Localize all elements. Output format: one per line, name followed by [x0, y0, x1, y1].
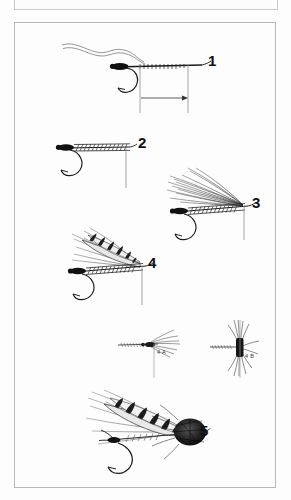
figure-label-4a: 4 A: [157, 350, 166, 356]
figure-label-1: 1: [208, 53, 216, 68]
figure-3-group: [167, 168, 255, 240]
figure-label-2: 2: [138, 135, 146, 150]
figure-label-4: 4: [148, 255, 156, 270]
figure-2-group: [56, 144, 137, 188]
fly-tying-illustration: [0, 0, 291, 500]
scanned-page: 1 2 3 4 4 A 4 B 5: [0, 0, 291, 500]
figure-label-3: 3: [252, 195, 260, 210]
figure-4-group: [68, 228, 153, 305]
figure-label-4b: 4 B: [245, 354, 254, 360]
figure-4b-group: [210, 320, 259, 378]
figure-label-5: 5: [200, 423, 208, 438]
figure-1-group: [62, 44, 211, 113]
figure-5-group: [86, 390, 211, 473]
figure-4a-group: [118, 330, 180, 378]
